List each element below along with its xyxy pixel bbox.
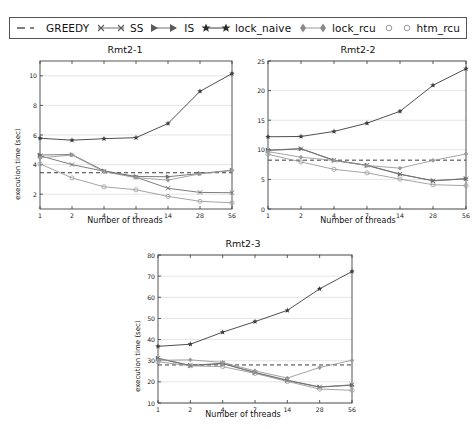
diamond-marker-icon <box>298 22 328 34</box>
legend-item-htm-rcu: htm_rcu <box>383 22 460 34</box>
figure-root: GREEDY SS IS <box>0 0 476 429</box>
legend-label-lock-rcu: lock_rcu <box>332 22 376 34</box>
subplot-title-rmt2-2: Rmt2-2 <box>246 44 470 55</box>
cross-marker-icon <box>96 22 126 34</box>
legend-item-is: IS <box>150 22 194 34</box>
legend-item-lock-naive: lock_naive <box>201 22 291 34</box>
x-axis-label-rmt2-1: Number of threads <box>14 216 236 225</box>
subplot-rmt2-1: Rmt2-1 execution time (sec) 246810124714… <box>14 44 236 234</box>
svg-text:10: 10 <box>257 146 265 153</box>
legend-item-lock-rcu: lock_rcu <box>298 22 376 34</box>
legend-label-is: IS <box>184 22 194 34</box>
circle-marker-icon <box>383 22 413 34</box>
svg-text:10: 10 <box>29 72 37 79</box>
legend-label-lock-naive: lock_naive <box>235 22 291 34</box>
svg-text:8: 8 <box>33 102 37 109</box>
legend-label-greedy: GREEDY <box>46 22 89 34</box>
x-axis-label-rmt2-3: Number of threads <box>130 410 356 419</box>
subplot-title-rmt2-3: Rmt2-3 <box>130 238 356 249</box>
star-marker-icon <box>201 22 231 34</box>
legend-item-ss: SS <box>96 22 144 34</box>
svg-text:15: 15 <box>257 117 265 124</box>
subplot-rmt2-3: Rmt2-3 execution time (sec) 102030405060… <box>130 238 356 428</box>
svg-text:6: 6 <box>33 132 37 139</box>
plot-area-rmt2-3: 10203040506070801247142856 <box>130 249 356 427</box>
legend-item-greedy: GREEDY <box>16 22 89 34</box>
subplot-rmt2-2: Rmt2-2 05101520251247142856 Number of th… <box>246 44 470 234</box>
svg-text:30: 30 <box>147 357 155 364</box>
svg-text:10: 10 <box>147 400 155 407</box>
chart-legend: GREEDY SS IS <box>9 17 467 39</box>
svg-text:5: 5 <box>261 176 265 183</box>
svg-text:50: 50 <box>147 315 155 322</box>
svg-text:70: 70 <box>147 273 155 280</box>
greedy-line-icon <box>16 22 42 34</box>
svg-text:20: 20 <box>147 378 155 385</box>
svg-text:25: 25 <box>257 58 265 65</box>
triangle-right-marker-icon <box>150 22 180 34</box>
plot-area-rmt2-2: 05101520251247142856 <box>246 55 470 233</box>
svg-text:4: 4 <box>33 161 37 168</box>
svg-text:20: 20 <box>257 87 265 94</box>
legend-label-htm-rcu: htm_rcu <box>417 22 460 34</box>
x-axis-label-rmt2-2: Number of threads <box>246 216 470 225</box>
svg-text:80: 80 <box>147 252 155 259</box>
svg-text:2: 2 <box>33 191 37 198</box>
subplot-title-rmt2-1: Rmt2-1 <box>14 44 236 55</box>
svg-text:0: 0 <box>261 206 265 213</box>
svg-text:40: 40 <box>147 336 155 343</box>
plot-area-rmt2-1: 2468101247142856 <box>14 55 236 233</box>
legend-label-ss: SS <box>130 22 144 34</box>
svg-text:60: 60 <box>147 294 155 301</box>
